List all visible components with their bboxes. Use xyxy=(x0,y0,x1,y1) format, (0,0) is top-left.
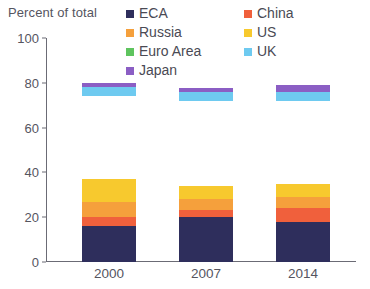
legend-label-china: China xyxy=(257,4,294,23)
bar-segment-russia[interactable] xyxy=(276,197,330,208)
legend-swatch-russia-icon xyxy=(126,29,134,37)
x-axis-tick-label: 2000 xyxy=(94,266,124,281)
legend-item-eca[interactable]: ECA xyxy=(126,4,244,23)
bar-2014[interactable] xyxy=(276,85,330,262)
bar-segment-china[interactable] xyxy=(276,208,330,221)
bar-segment-eca[interactable] xyxy=(276,222,330,262)
bar-segment-eca[interactable] xyxy=(82,226,136,262)
legend-item-china[interactable]: China xyxy=(244,4,362,23)
bar-segment-euro-area[interactable] xyxy=(179,101,233,186)
bar-series-layer xyxy=(46,38,356,262)
bar-segment-euro-area[interactable] xyxy=(82,96,136,179)
bar-segment-uk[interactable] xyxy=(179,92,233,101)
bar-segment-uk[interactable] xyxy=(82,87,136,96)
bar-segment-japan[interactable] xyxy=(276,85,330,92)
x-axis-tick-label: 2014 xyxy=(288,266,318,281)
bar-segment-us[interactable] xyxy=(82,179,136,201)
bar-segment-russia[interactable] xyxy=(82,202,136,218)
legend-label-eca: ECA xyxy=(139,4,168,23)
bar-segment-china[interactable] xyxy=(179,210,233,217)
bar-2007[interactable] xyxy=(179,88,233,262)
bar-segment-china[interactable] xyxy=(82,217,136,226)
chart-axis-title: Percent of total xyxy=(8,5,97,20)
plot-area: 020406080100 200020072014 xyxy=(46,38,356,262)
legend-swatch-eca-icon xyxy=(126,10,134,18)
bar-segment-euro-area[interactable] xyxy=(276,101,330,184)
bar-segment-us[interactable] xyxy=(276,184,330,197)
bar-segment-eca[interactable] xyxy=(179,217,233,262)
legend-swatch-china-icon xyxy=(244,10,252,18)
bar-segment-uk[interactable] xyxy=(276,92,330,101)
legend-swatch-us-icon xyxy=(244,29,252,37)
x-axis-tick-label: 2007 xyxy=(191,266,221,281)
bar-2000[interactable] xyxy=(82,83,136,262)
stacked-bar-chart: Percent of total ECA China Russia US Eur… xyxy=(0,0,370,289)
bar-segment-russia[interactable] xyxy=(179,199,233,210)
bar-segment-us[interactable] xyxy=(179,186,233,199)
